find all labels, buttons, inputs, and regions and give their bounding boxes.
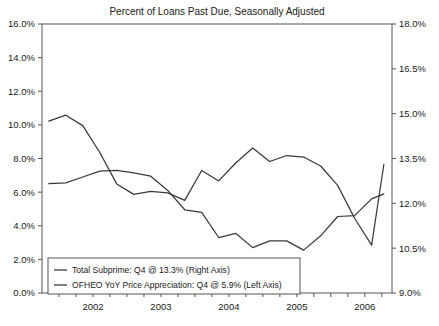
left-axis-tick-label: 4.0% (13, 220, 35, 231)
series-line-1 (49, 170, 384, 250)
x-axis-tick-label: 2003 (150, 301, 171, 312)
x-axis-tick-label: 2004 (218, 301, 239, 312)
plot-frame (42, 24, 392, 293)
chart-title: Percent of Loans Past Due, Seasonally Ad… (109, 6, 324, 17)
right-axis-tick-label: 10.5% (399, 243, 426, 254)
right-axis-tick-label: 9.0% (399, 287, 421, 298)
x-axis: 20022003200420052006 (59, 293, 382, 312)
x-axis-tick-label: 2006 (354, 301, 375, 312)
left-axis-tick-label: 2.0% (13, 254, 35, 265)
left-axis-tick-label: 0.0% (13, 287, 35, 298)
left-axis-tick-label: 16.0% (8, 18, 35, 29)
right-axis-tick-label: 16.5% (399, 63, 426, 74)
left-axis-tick-label: 8.0% (13, 153, 35, 164)
line-chart: Percent of Loans Past Due, Seasonally Ad… (0, 0, 439, 326)
legend-label-1: OFHEO YoY Price Appreciation: Q4 @ 5.9% … (72, 280, 282, 290)
left-axis-tick-label: 6.0% (13, 187, 35, 198)
right-axis-tick-label: 12.0% (399, 198, 426, 209)
right-axis-tick-label: 18.0% (399, 18, 426, 29)
left-axis-tick-label: 14.0% (8, 52, 35, 63)
x-axis-tick-label: 2005 (286, 301, 307, 312)
chart-legend: Total Subprime: Q4 @ 13.3% (Right Axis)O… (48, 258, 300, 294)
left-axis-tick-label: 10.0% (8, 119, 35, 130)
left-axis: 0.0%2.0%4.0%6.0%8.0%10.0%12.0%14.0%16.0% (8, 18, 42, 298)
series-lines (49, 115, 384, 250)
left-axis-tick-label: 12.0% (8, 86, 35, 97)
chart-container: Percent of Loans Past Due, Seasonally Ad… (0, 0, 439, 326)
x-axis-tick-label: 2002 (82, 301, 103, 312)
right-axis: 9.0%10.5%12.0%13.5%15.0%16.5%18.0% (392, 18, 426, 298)
right-axis-tick-label: 15.0% (399, 108, 426, 119)
series-line-0 (49, 115, 384, 245)
legend-label-0: Total Subprime: Q4 @ 13.3% (Right Axis) (72, 265, 230, 275)
right-axis-tick-label: 13.5% (399, 153, 426, 164)
